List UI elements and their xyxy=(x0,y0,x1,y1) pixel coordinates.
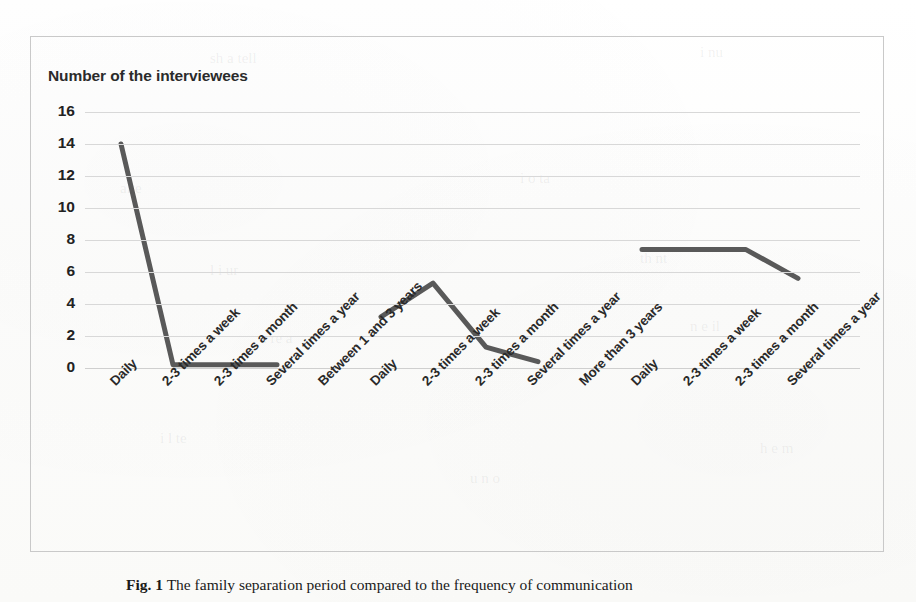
y-axis-tick-label: 12 xyxy=(41,166,75,184)
y-axis-tick-label: 16 xyxy=(41,102,75,120)
y-axis-tick-label: 2 xyxy=(41,326,75,344)
line-series-segment xyxy=(381,283,538,361)
y-axis-tick-label: 0 xyxy=(41,358,75,376)
line-series-segment xyxy=(642,250,798,279)
line-series-segment xyxy=(121,144,277,365)
gridline xyxy=(85,368,860,369)
gridline xyxy=(85,176,860,177)
y-axis-tick-label: 4 xyxy=(41,294,75,312)
figure-caption-text: The family separation period compared to… xyxy=(167,576,633,593)
figure-caption: Fig. 1 The family separation period comp… xyxy=(126,576,633,594)
gridline xyxy=(85,144,860,145)
figure-number: Fig. 1 xyxy=(126,576,163,593)
gridline xyxy=(85,208,860,209)
y-axis-tick-label: 8 xyxy=(41,230,75,248)
y-axis-tick-label: 10 xyxy=(41,198,75,216)
gridline xyxy=(85,112,860,113)
gridline xyxy=(85,240,860,241)
gridline xyxy=(85,336,860,337)
y-axis-tick-label: 14 xyxy=(41,134,75,152)
y-axis-tick-label: 6 xyxy=(41,262,75,280)
gridline xyxy=(85,272,860,273)
gridline xyxy=(85,304,860,305)
y-axis-title: Number of the interviewees xyxy=(48,67,248,85)
